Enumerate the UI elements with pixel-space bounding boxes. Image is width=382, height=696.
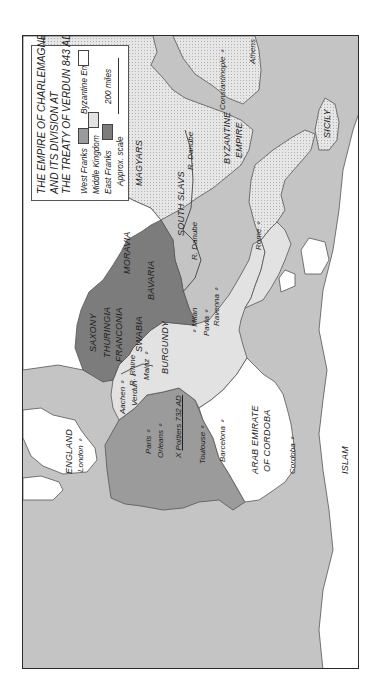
legend-swatch-middle-kingdom bbox=[88, 112, 99, 128]
label-athens: Athens bbox=[249, 39, 257, 64]
label-islam: ISLAM bbox=[341, 446, 350, 474]
label-moravia: MORAVIA bbox=[123, 232, 132, 274]
label-river-danube-west: R. Danube bbox=[191, 222, 199, 260]
label-pavia: Pavia ∘ bbox=[203, 309, 211, 336]
legend-scale-bar bbox=[118, 58, 119, 114]
label-toulouse: Toulouse ∘ bbox=[199, 425, 207, 464]
label-cordoba: Cordoba ∘ bbox=[289, 436, 297, 474]
legend-title-line-3: THE TREATY OF VERDUN 843 AD bbox=[61, 35, 74, 194]
label-south-slavs: SOUTH SLAVS bbox=[177, 171, 186, 236]
legend-scale-label: 200 miles bbox=[104, 69, 113, 104]
label-arab-line1: ARAB EMIRATE bbox=[251, 405, 260, 474]
label-arab-line2: OF CORDOBA bbox=[263, 410, 272, 472]
label-thuringia: THURINGIA bbox=[103, 307, 112, 358]
label-london: London ∘ bbox=[77, 438, 85, 472]
legend-title-line-2: AND ITS DIVISION AT bbox=[49, 35, 62, 194]
label-burgundy: BURGUNDY bbox=[161, 321, 170, 374]
label-ravenna: Ravenna ∘ bbox=[213, 287, 221, 326]
label-saxony: SAXONY bbox=[89, 313, 98, 352]
label-barcelona: Barcelona ∘ bbox=[219, 419, 227, 462]
map-canvas: ENGLAND SAXONY THURINGIA FRANCONIA SWABI… bbox=[23, 36, 359, 669]
label-paris: Paris ∘ bbox=[145, 429, 153, 454]
legend-swatch-west-franks bbox=[78, 128, 89, 144]
legend-label-middle-kingdom: Middle Kingdom bbox=[92, 135, 101, 194]
map-legend: THE EMPIRE OF CHARLEMAGNE AND ITS DIVISI… bbox=[31, 45, 129, 201]
label-battle-poitiers: X Poitiers 732 AD bbox=[175, 395, 183, 458]
label-england: ENGLAND bbox=[65, 429, 74, 474]
label-sicily: SICILY bbox=[323, 109, 332, 138]
label-franconia: FRANCONIA bbox=[115, 307, 124, 362]
legend-scale-note: Approx. scale bbox=[116, 136, 125, 186]
label-byzantine-line1: BYZANTINE bbox=[223, 112, 232, 164]
legend-title-line-1: THE EMPIRE OF CHARLEMAGNE bbox=[36, 35, 49, 194]
legend-label-west-franks: West Franks bbox=[80, 148, 89, 194]
label-aachen: Aachen ∘ bbox=[119, 380, 127, 414]
label-orleans: Orleans ∘ bbox=[157, 423, 165, 458]
label-river-danube-east: R. Danube bbox=[187, 132, 195, 170]
legend-swatch-east-franks bbox=[102, 124, 113, 140]
label-constantinople: Constantinople ∘ bbox=[219, 49, 227, 110]
legend-swatch-byzantine bbox=[78, 50, 89, 66]
legend-title: THE EMPIRE OF CHARLEMAGNE AND ITS DIVISI… bbox=[36, 35, 74, 194]
label-magyars: MAGYARS bbox=[135, 140, 144, 186]
label-mainz: Mainz ∘ bbox=[143, 351, 151, 380]
map-frame: ENGLAND SAXONY THURINGIA FRANCONIA SWABI… bbox=[22, 35, 359, 669]
label-milan: ∘ Milan bbox=[191, 308, 199, 334]
label-rome: Rome ∘ bbox=[255, 221, 263, 250]
legend-label-east-franks: East Franks bbox=[104, 150, 113, 194]
label-swabia: SWABIA bbox=[135, 316, 144, 352]
label-bavaria: BAVARIA bbox=[147, 261, 156, 300]
label-byzantine-line2: EMPIRE bbox=[235, 122, 244, 158]
label-river-rhine: R. Rhine bbox=[129, 355, 137, 386]
